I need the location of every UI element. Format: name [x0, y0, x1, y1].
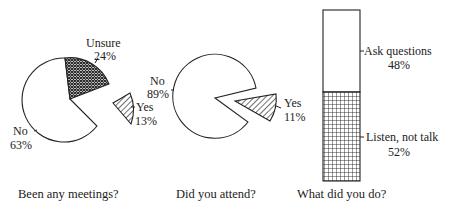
figure: Unsure 24% Yes 13% No 63% Been any meeti… — [0, 0, 451, 213]
label-listen: Listen, not talk — [366, 130, 438, 144]
chart-title-attend: Did you attend? — [176, 187, 256, 201]
chart-title-meetings: Been any meetings? — [18, 187, 119, 201]
slice-unsure — [65, 58, 109, 99]
label-unsure: Unsure — [86, 36, 121, 50]
pie-chart-attend: No 89% Yes 11% Did you attend? — [147, 54, 306, 201]
label-yes-pct: 11% — [284, 110, 306, 124]
bar-listen-not-talk — [323, 92, 360, 181]
label-no-pct: 63% — [10, 138, 32, 152]
chart-title-what-did-you-do: What did you do? — [297, 187, 387, 201]
label-no: No — [150, 74, 165, 88]
bar-ask-questions — [323, 10, 360, 92]
slice-no — [173, 54, 256, 138]
stacked-bar-what-did-you-do: Ask questions 48% Listen, not talk 52% W… — [297, 10, 438, 201]
label-yes: Yes — [136, 100, 154, 114]
label-ask-questions-pct: 48% — [388, 58, 410, 72]
label-yes-pct: 13% — [135, 114, 157, 128]
label-no-pct: 89% — [147, 87, 169, 101]
label-unsure-pct: 24% — [94, 49, 116, 63]
label-ask-questions: Ask questions — [364, 44, 432, 58]
pie-chart-meetings: Unsure 24% Yes 13% No 63% Been any meeti… — [10, 36, 157, 201]
slice-yes — [113, 93, 133, 124]
label-no: No — [13, 124, 28, 138]
label-yes: Yes — [284, 96, 302, 110]
label-listen-pct: 52% — [388, 145, 410, 159]
